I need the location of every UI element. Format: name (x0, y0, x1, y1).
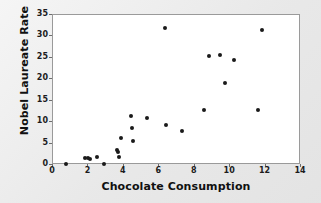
data-point (131, 139, 135, 143)
y-tick-mark (49, 100, 52, 101)
data-point (180, 129, 184, 133)
x-tick-label: 4 (120, 167, 126, 175)
data-point (102, 162, 106, 166)
x-tick-label: 14 (294, 167, 305, 175)
y-tick-mark (49, 57, 52, 58)
y-tick-label: 0 (42, 160, 48, 168)
x-tick-label: 8 (191, 167, 197, 175)
data-point (116, 150, 120, 154)
data-point (130, 126, 134, 130)
data-point (207, 54, 211, 58)
y-axis-tick-labels: 05101520253035 (28, 14, 48, 164)
y-tick-mark (49, 121, 52, 122)
data-point (256, 108, 260, 112)
x-tick-label: 6 (155, 167, 161, 175)
plot-area (52, 14, 300, 164)
data-points-layer (53, 15, 299, 163)
data-point (117, 155, 121, 159)
y-tick-mark (49, 78, 52, 79)
data-point (119, 136, 123, 140)
y-tick-label: 25 (37, 53, 48, 61)
y-axis-title: Nobel Laureate Rate (18, 0, 31, 151)
y-tick-label: 5 (42, 139, 48, 147)
x-axis-title: Chocolate Consumption (52, 180, 300, 193)
y-tick-mark (49, 35, 52, 36)
data-point (88, 157, 92, 161)
y-tick-label: 30 (37, 31, 48, 39)
x-tick-label: 10 (224, 167, 235, 175)
data-point (218, 53, 222, 57)
data-point (164, 123, 168, 127)
y-tick-label: 10 (37, 117, 48, 125)
data-point (223, 81, 227, 85)
data-point (260, 28, 264, 32)
y-tick-label: 35 (37, 10, 48, 18)
data-point (163, 26, 167, 30)
x-axis-tick-labels: 02468101214 (52, 167, 300, 179)
x-tick-label: 0 (49, 167, 55, 175)
y-tick-mark (49, 143, 52, 144)
data-point (95, 155, 99, 159)
data-point (129, 114, 133, 118)
data-point (145, 116, 149, 120)
data-point (202, 108, 206, 112)
y-tick-label: 15 (37, 96, 48, 104)
x-tick-label: 2 (85, 167, 91, 175)
data-point (232, 58, 236, 62)
y-tick-label: 20 (37, 74, 48, 82)
x-tick-label: 12 (259, 167, 270, 175)
scatter-chart-figure: 05101520253035 02468101214 Chocolate Con… (0, 0, 321, 203)
data-point (64, 162, 68, 166)
y-tick-mark (49, 14, 52, 15)
